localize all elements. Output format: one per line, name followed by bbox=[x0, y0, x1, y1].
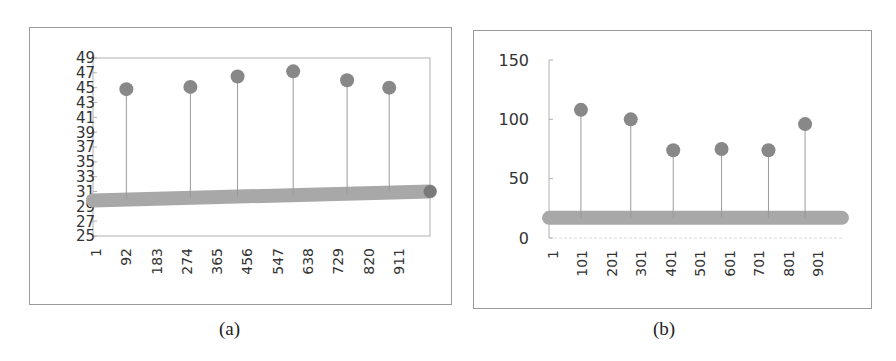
data-point-marker bbox=[715, 142, 729, 156]
x-tick-label: 201 bbox=[604, 250, 620, 277]
end-point-marker bbox=[424, 185, 437, 198]
x-tick-label: 1 bbox=[88, 248, 104, 257]
x-tick-label: 456 bbox=[239, 248, 255, 275]
x-tick-label: 301 bbox=[633, 250, 649, 277]
data-point-marker bbox=[286, 64, 300, 78]
data-point-marker bbox=[624, 112, 638, 126]
x-tick-label: 92 bbox=[118, 248, 134, 266]
x-tick-label: 183 bbox=[149, 248, 165, 275]
x-tick-label: 501 bbox=[692, 250, 708, 277]
baseline-band bbox=[93, 192, 430, 201]
x-tick-label: 820 bbox=[361, 248, 377, 275]
chart-panel-b: 0501001501101201301401501601701801901 bbox=[473, 30, 872, 309]
x-tick-label: 638 bbox=[300, 248, 316, 275]
x-tick-label: 274 bbox=[179, 248, 195, 275]
x-tick-label: 1 bbox=[545, 250, 561, 259]
y-tick-label: 0 bbox=[519, 229, 529, 248]
data-point-marker bbox=[574, 103, 588, 117]
data-point-marker bbox=[666, 143, 680, 157]
x-tick-label: 101 bbox=[574, 250, 590, 277]
plot-frame bbox=[93, 58, 430, 236]
y-tick-label: 49 bbox=[76, 49, 95, 67]
data-point-marker bbox=[798, 117, 812, 131]
x-tick-label: 601 bbox=[722, 250, 738, 277]
x-tick-label: 729 bbox=[330, 248, 346, 275]
data-point-marker bbox=[340, 73, 354, 87]
chart-panel-a: 2527293133353739414345474919218327436545… bbox=[29, 27, 452, 305]
x-tick-label: 365 bbox=[209, 248, 225, 275]
data-point-marker bbox=[231, 70, 245, 84]
x-tick-label: 801 bbox=[781, 250, 797, 277]
caption-a: (a) bbox=[219, 318, 240, 340]
x-tick-label: 911 bbox=[391, 248, 407, 275]
x-tick-label: 701 bbox=[751, 250, 767, 277]
y-tick-label: 150 bbox=[498, 51, 529, 70]
data-point-marker bbox=[382, 81, 396, 95]
stem-chart-a: 2527293133353739414345474919218327436545… bbox=[30, 28, 451, 304]
x-tick-label: 901 bbox=[810, 250, 826, 277]
caption-b: (b) bbox=[653, 318, 675, 340]
x-tick-label: 547 bbox=[270, 248, 286, 275]
y-tick-label: 50 bbox=[509, 169, 529, 188]
data-point-marker bbox=[119, 82, 133, 96]
y-tick-label: 100 bbox=[498, 110, 529, 129]
data-point-marker bbox=[183, 80, 197, 94]
x-tick-label: 401 bbox=[663, 250, 679, 277]
data-point-marker bbox=[761, 143, 775, 157]
stem-chart-b: 0501001501101201301401501601701801901 bbox=[474, 31, 871, 308]
